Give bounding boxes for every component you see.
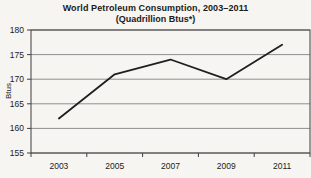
plot-border (31, 30, 310, 153)
y-tick-label: 160 (10, 123, 24, 133)
x-tick-label: 2011 (273, 161, 292, 171)
y-tick-label: 155 (10, 148, 24, 158)
petroleum-consumption-chart: World Petroleum Consumption, 2003–2011 (… (0, 0, 311, 178)
x-tick-label: 2003 (49, 161, 68, 171)
y-tick-label: 180 (10, 25, 24, 35)
x-tick-label: 2007 (161, 161, 180, 171)
y-tick-label: 175 (10, 50, 24, 60)
x-tick-label: 2009 (217, 161, 236, 171)
plot-area: 15516016517017518020032005200720092011 (0, 0, 311, 178)
x-tick-label: 2005 (105, 161, 124, 171)
y-tick-label: 170 (10, 74, 24, 84)
y-tick-label: 165 (10, 99, 24, 109)
data-line (59, 45, 282, 119)
